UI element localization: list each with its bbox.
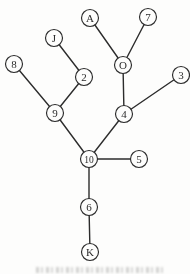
node-A: A <box>82 10 99 27</box>
node-10: 10 <box>81 151 98 168</box>
node-label-3: 3 <box>178 69 184 81</box>
caption-blurred-text <box>36 267 164 273</box>
node-label-10: 10 <box>84 155 94 165</box>
graph-svg: A7JO823941056K <box>0 0 190 274</box>
node-label-6: 6 <box>86 201 92 213</box>
node-label-5: 5 <box>136 153 142 165</box>
node-label-J: J <box>52 32 57 44</box>
node-2: 2 <box>76 69 93 86</box>
node-label-8: 8 <box>11 58 17 70</box>
edge-3-4 <box>124 75 181 114</box>
graph-figure: A7JO823941056K <box>0 0 190 274</box>
node-3: 3 <box>173 67 190 84</box>
node-label-K: K <box>86 246 94 258</box>
node-label-O: O <box>119 59 127 71</box>
node-7: 7 <box>140 9 157 26</box>
node-9: 9 <box>47 105 64 122</box>
node-label-2: 2 <box>81 71 87 83</box>
node-4: 4 <box>116 106 133 123</box>
node-J: J <box>46 30 63 47</box>
edge-8-9 <box>14 64 55 113</box>
node-5: 5 <box>131 151 148 168</box>
node-label-4: 4 <box>121 108 127 120</box>
node-8: 8 <box>6 56 23 73</box>
node-O: O <box>115 57 132 74</box>
node-6: 6 <box>81 199 98 216</box>
node-label-9: 9 <box>52 107 58 119</box>
node-label-7: 7 <box>145 11 151 23</box>
node-K: K <box>82 244 99 261</box>
node-label-A: A <box>86 12 94 24</box>
